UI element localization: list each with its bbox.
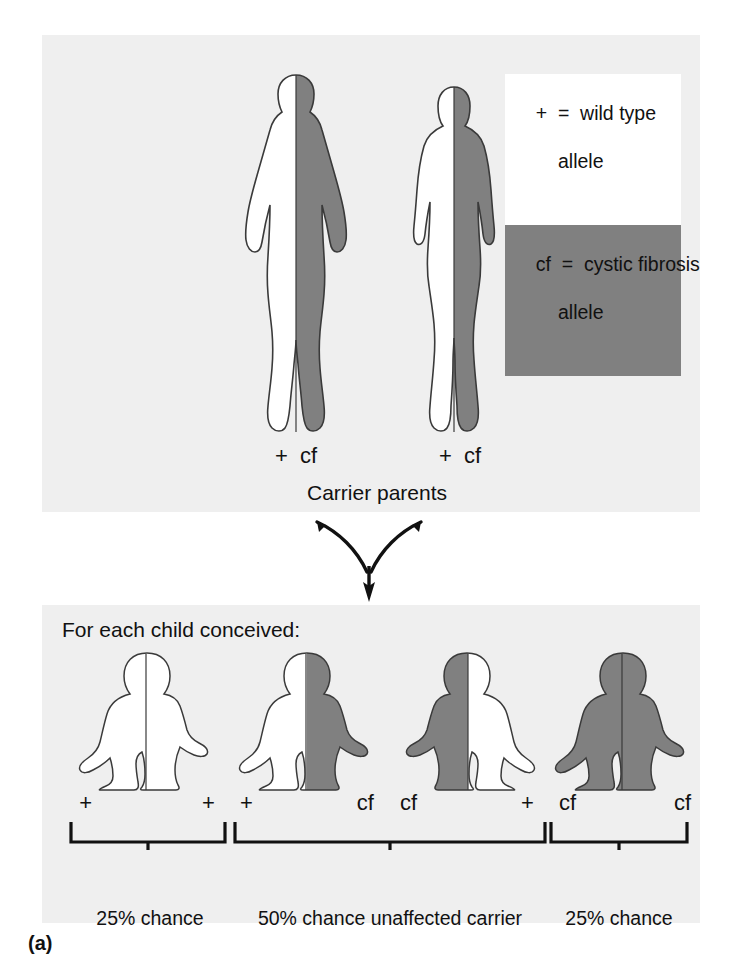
mother-genotype-label: + cf (400, 443, 520, 469)
legend-row-wild-type: + = wild type allele (505, 74, 681, 225)
bracket-outcome-2 (232, 820, 548, 854)
outcome-1-text: 25% chance unaffected noncarrier (62, 858, 238, 967)
outcome-2-line-1: 50% chance unaffected carrier (228, 906, 552, 930)
outcome-1-line-1: 25% chance (62, 906, 238, 930)
child-2-genotype-label: + cf (222, 790, 392, 816)
mother-left-half-wild (396, 84, 454, 440)
outcome-2-text: 50% chance unaffected carrier (cf allele… (228, 858, 552, 967)
child-3-figure (392, 650, 542, 790)
bracket-outcome-1 (68, 820, 228, 854)
carrier-parents-caption: Carrier parents (242, 481, 512, 505)
legend-row-cf: cf = cystic fibrosis allele (505, 225, 681, 376)
inheritance-arrow (295, 516, 445, 604)
outcome-3-line-1: 25% chance (543, 906, 695, 930)
child-4-figure (548, 650, 698, 790)
father-figure (228, 72, 364, 442)
allele-legend: + = wild type allele cf = cystic fibrosi… (505, 74, 681, 376)
child-1-figure (72, 650, 222, 790)
legend-wild-type-text: + = wild type (536, 102, 656, 124)
child-3-genotype-label: cf + (382, 790, 552, 816)
bracket-outcome-3 (548, 820, 690, 854)
father-genotype-label: + cf (236, 443, 356, 469)
figure-label: (a) (28, 932, 52, 955)
mother-right-half-cf (454, 84, 512, 440)
child-2-figure (232, 650, 382, 790)
father-right-half-cf (296, 72, 364, 442)
legend-cf-continuation: allele (514, 300, 681, 324)
legend-wild-type-continuation: allele (514, 149, 681, 173)
mother-figure (396, 84, 512, 440)
legend-cf-text: cf = cystic fibrosis (536, 253, 700, 275)
child-1-genotype-label: + + (62, 790, 232, 816)
children-heading: For each child conceived: (62, 618, 300, 642)
outcome-3-text: 25% chance affected (543, 858, 695, 967)
child-4-genotype-label: cf cf (540, 790, 710, 816)
father-left-half-wild (228, 72, 296, 442)
